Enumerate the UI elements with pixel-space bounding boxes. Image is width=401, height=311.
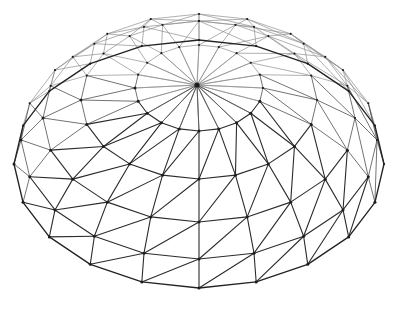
geodesic-dome-figure: Geodesic Dome Wireframe Line-drawing of … [0, 0, 401, 311]
figure-background [0, 0, 401, 311]
